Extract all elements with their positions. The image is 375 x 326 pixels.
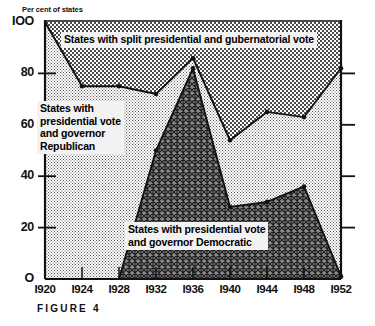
data-point-upper-1940	[228, 138, 233, 143]
figure-caption: FIGURE 4	[37, 303, 101, 314]
x-tick-label-1952: I952	[321, 283, 361, 295]
figure-4-chart: Per cent of states	[0, 0, 375, 326]
data-point-lower-1932	[154, 148, 159, 153]
data-point-upper-1924	[80, 84, 85, 89]
data-point-lower-1936	[191, 66, 196, 71]
data-point-lower-1948	[302, 184, 307, 189]
data-point-lower-1940	[228, 205, 233, 210]
data-point-upper-1932	[154, 92, 159, 97]
x-tick-label-1940: I940	[210, 283, 250, 295]
data-point-upper-1928	[117, 84, 122, 89]
x-tick-label-1932: I932	[136, 283, 176, 295]
x-tick-label-1944: I944	[247, 283, 287, 295]
data-point-upper-1952	[339, 66, 344, 71]
y-tick-label-20: 20	[8, 220, 34, 234]
plot-area	[0, 0, 375, 326]
x-tick-label-1920: I920	[25, 283, 65, 295]
annotation-split-vote: States with split presidential and guber…	[61, 32, 317, 48]
x-tick-label-1924: I924	[62, 283, 102, 295]
data-point-upper-1944	[265, 110, 270, 115]
data-point-lower-1944	[265, 200, 270, 205]
y-tick-label-100: IOO	[8, 14, 34, 28]
annotation-republican: States with presidential vote and govern…	[37, 101, 124, 154]
data-point-upper-1936	[191, 56, 196, 61]
y-tick-label-40: 40	[8, 168, 34, 182]
x-tick-label-1928: I928	[99, 283, 139, 295]
data-point-lower-1952	[339, 274, 344, 279]
annotation-democratic: States with presidential vote and govern…	[125, 222, 268, 250]
y-tick-label-60: 60	[8, 117, 34, 131]
x-tick-label-1936: I936	[173, 283, 213, 295]
y-tick-label-80: 80	[8, 65, 34, 79]
data-point-upper-1948	[302, 115, 307, 120]
x-tick-label-1948: I948	[284, 283, 324, 295]
